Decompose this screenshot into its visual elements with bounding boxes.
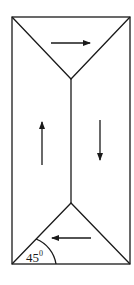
top-triangle: [12, 17, 130, 79]
flow-diagram: 450: [0, 0, 134, 285]
angle-label: 450: [26, 249, 43, 265]
